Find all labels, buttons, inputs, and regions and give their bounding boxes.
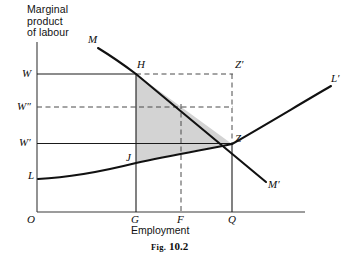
curve-label-m-prime: M′ bbox=[268, 178, 280, 190]
figure-caption-prefix: Fig. bbox=[151, 242, 166, 252]
point-label-j: J bbox=[126, 151, 131, 163]
y-axis-title-line-1: Marginal bbox=[27, 4, 105, 16]
figure-caption-number: 10.2 bbox=[169, 240, 188, 252]
curve-label-l: L bbox=[28, 169, 34, 181]
point-label-z-prime: Z′ bbox=[235, 58, 244, 70]
origin-label: O bbox=[27, 213, 35, 225]
x-axis-title: Employment bbox=[131, 224, 189, 236]
curve-label-m: M bbox=[88, 33, 97, 45]
point-label-h: H bbox=[137, 58, 145, 70]
y-tick-label-w-double-prime: W″ bbox=[17, 100, 31, 112]
figure-caption: Fig. 10.2 bbox=[151, 240, 188, 252]
y-tick-label-w: W bbox=[22, 67, 31, 79]
figure-container: Marginal product of labour W W″ W′ O G F… bbox=[0, 0, 359, 257]
y-tick-label-w-prime: W′ bbox=[19, 136, 31, 148]
curve-label-l-prime: L′ bbox=[331, 72, 340, 84]
x-tick-label-q: Q bbox=[228, 213, 236, 225]
point-label-z: Z bbox=[235, 132, 241, 144]
shaded-rent-region bbox=[136, 74, 232, 163]
